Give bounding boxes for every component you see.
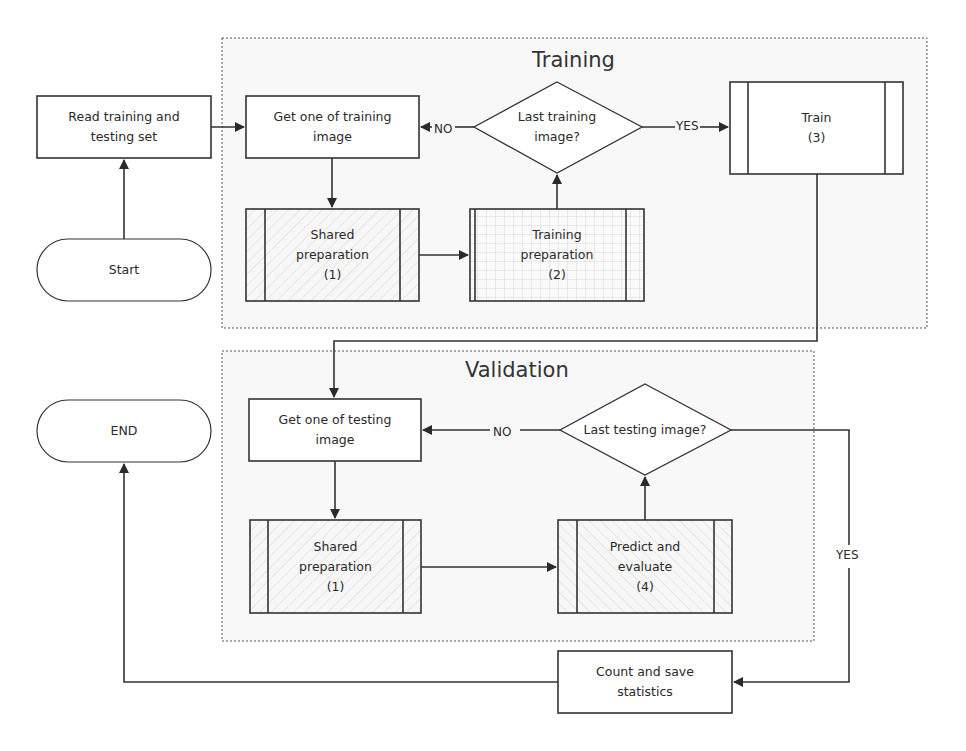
read-label: Read training and testing set <box>37 96 211 158</box>
predict-label: Predict and evaluate (4) <box>558 520 732 613</box>
edge-label-no-training: NO <box>434 122 452 136</box>
edge-label-yes-training: YES <box>676 119 699 133</box>
last-testing-label: Last testing image? <box>570 418 720 442</box>
edge-label-yes-testing: YES <box>836 548 859 562</box>
shared-train-label: Shared preparation (1) <box>246 209 419 301</box>
get-test-label: Get one of testing image <box>249 399 421 461</box>
edge-label-no-testing: NO <box>493 425 511 439</box>
start-label: Start <box>37 239 211 301</box>
shared-test-label: Shared preparation (1) <box>250 520 421 613</box>
validation-region-title: Validation <box>465 358 569 382</box>
train-label: Train (3) <box>730 82 903 174</box>
end-label: END <box>37 400 211 462</box>
count-label: Count and save statistics <box>558 651 732 713</box>
training-region-title: Training <box>532 48 615 72</box>
get-train-label: Get one of training image <box>246 96 419 158</box>
training-prep-label: Training preparation (2) <box>470 209 644 301</box>
last-training-label: Last training image? <box>494 97 620 157</box>
